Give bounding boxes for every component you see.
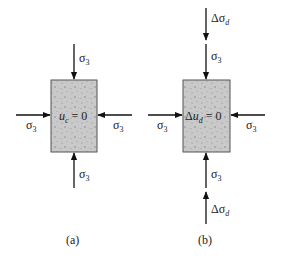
- specimen-label-b: Δud = 0: [185, 109, 222, 125]
- caption-b: (b): [198, 233, 212, 247]
- label-delta-sigma-d-top-b: Δσd: [211, 11, 230, 27]
- triaxial-test-diagram: σ3 σ3 σ3 σ3 uc = 0 (a) Δσd σ3 σ3 Δσd σ3 …: [0, 0, 283, 261]
- label-sigma3-left-b: σ3: [157, 118, 167, 134]
- label-sigma3-bottom-a: σ3: [79, 167, 89, 183]
- label-sigma3-top-a: σ3: [79, 51, 89, 67]
- panel-b: Δσd σ3 σ3 Δσd σ3 σ3 Δud = 0 (b): [148, 8, 265, 247]
- panel-a: σ3 σ3 σ3 σ3 uc = 0 (a): [16, 44, 132, 247]
- label-sigma3-right-b: σ3: [246, 118, 256, 134]
- label-sigma3-left-a: σ3: [26, 118, 36, 134]
- specimen-label-a: uc = 0: [59, 109, 87, 125]
- label-sigma3-bottom-b: σ3: [211, 167, 221, 183]
- label-sigma3-top-b: σ3: [211, 49, 221, 65]
- caption-a: (a): [66, 233, 79, 247]
- label-sigma3-right-a: σ3: [113, 118, 123, 134]
- label-delta-sigma-d-bottom-b: Δσd: [211, 202, 230, 218]
